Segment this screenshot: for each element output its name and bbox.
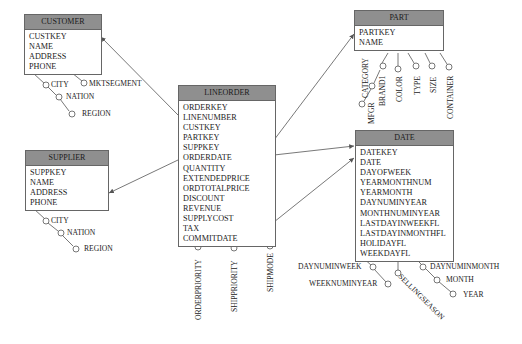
attribute: TAX [183, 224, 271, 234]
extra-attr: SIZE [429, 77, 438, 93]
entity-title: PART [355, 11, 443, 26]
entity-lineorder[interactable]: LINEORDER ORDERKEY LINENUMBER CUSTKEY PA… [178, 85, 276, 247]
hier-attr: YEAR [463, 290, 484, 299]
attribute: DISCOUNT [183, 194, 271, 204]
entity-title: DATE [356, 131, 453, 146]
attribute: PARTKEY [183, 133, 271, 143]
attribute: ADDRESS [30, 188, 104, 198]
attribute: ORDERDATE [183, 153, 271, 163]
attribute: QUANTITY [183, 164, 271, 174]
hier-attr: BRAND1 [378, 76, 387, 106]
attribute: COMMITDATE [183, 234, 271, 244]
attribute: ADDRESS [29, 52, 97, 62]
degenerate-attr: SHIPPRIORITY [230, 261, 239, 312]
attribute: SUPPKEY [183, 143, 271, 153]
hier-attr: REGION [84, 244, 113, 253]
attribute: CUSTKEY [29, 32, 97, 42]
entity-date[interactable]: DATE DATEKEY DATE DAYOFWEEK YEARMONTHNUM… [355, 130, 454, 262]
extra-attr: TYPE [413, 76, 422, 95]
attribute: MONTHNUMINYEAR [360, 209, 449, 219]
entity-title: SUPPLIER [26, 151, 108, 166]
extra-attr: CONTAINER [446, 76, 455, 119]
attribute: DATEKEY [360, 148, 449, 158]
entity-title: CUSTOMER [25, 15, 101, 30]
entity-customer[interactable]: CUSTOMER CUSTKEY NAME ADDRESS PHONE [24, 14, 102, 75]
attribute: DATE [360, 158, 449, 168]
hier-attr: MONTH [446, 275, 474, 284]
attribute: YEARMONTHNUM [360, 178, 449, 188]
hier-attr: CITY [51, 80, 69, 89]
attribute: PARTKEY [359, 28, 439, 38]
hier-attr: NATION [67, 228, 95, 237]
attribute: REVENUE [183, 204, 271, 214]
attribute: NAME [29, 42, 97, 52]
extra-attr: COLOR [395, 76, 404, 102]
attribute: DAYOFWEEK [360, 168, 449, 178]
date-attr: DAYNUMINWEEK [298, 262, 361, 271]
attribute: NAME [30, 178, 104, 188]
hier-attr: CATEGORY [361, 58, 370, 98]
hier-attr: MFGR [367, 102, 376, 124]
attribute: LASTDAYINMONTHFL [360, 229, 449, 239]
degenerate-attr: ORDERPRIORITY [194, 259, 203, 320]
attribute: PHONE [29, 62, 97, 72]
attribute: WEEKDAYFL [360, 249, 449, 259]
hier-attr: REGION [82, 109, 111, 118]
attribute: EXTENDEDPRICE [183, 174, 271, 184]
hier-attr: CITY [51, 216, 69, 225]
attribute: SUPPLYCOST [183, 214, 271, 224]
hier-attr: DAYNUMINMONTH [430, 262, 499, 271]
attribute: LASTDAYINWEEKFL [360, 219, 449, 229]
attribute: SUPPKEY [30, 168, 104, 178]
degenerate-attr: SHIPMODE [266, 253, 275, 292]
attribute: DAYNUMINYEAR [360, 198, 449, 208]
hier-attr: NATION [66, 92, 94, 101]
entity-title: LINEORDER [179, 86, 275, 101]
attribute: YEARMONTH [360, 188, 449, 198]
attribute: ORDTOTALPRICE [183, 184, 271, 194]
attribute: CUSTKEY [183, 123, 271, 133]
entity-supplier[interactable]: SUPPLIER SUPPKEY NAME ADDRESS PHONE [25, 150, 109, 211]
attribute: LINENUMBER [183, 113, 271, 123]
attribute: PHONE [30, 198, 104, 208]
date-attr: WEEKNUMINYEAR [309, 279, 377, 288]
extra-attr: MKTSEGMENT [89, 79, 142, 88]
attribute: ORDERKEY [183, 103, 271, 113]
attribute: NAME [359, 38, 439, 48]
attribute: HOLIDAYFL [360, 239, 449, 249]
entity-part[interactable]: PART PARTKEY NAME [354, 10, 444, 51]
